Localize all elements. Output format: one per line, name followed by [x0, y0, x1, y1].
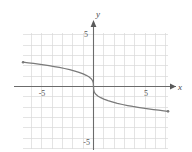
x-axis-arrow-icon: [170, 84, 176, 90]
y-axis-arrow-icon: [91, 20, 97, 27]
curve-left-endpoint: [22, 61, 25, 64]
x-tick-label-negative-five: -5: [39, 89, 46, 98]
curve-right-endpoint: [167, 110, 170, 113]
y-tick-label-negative-five: -5: [83, 138, 90, 147]
y-tick-label-positive-five: 5: [84, 30, 88, 39]
graph-canvas: x y -5 5 5 -5: [0, 0, 192, 152]
x-tick-label-positive-five: 5: [144, 89, 148, 98]
x-axis-label: x: [177, 82, 182, 92]
y-axis-label: y: [95, 9, 100, 19]
coordinate-plane-graph: x y -5 5 5 -5: [0, 0, 192, 152]
